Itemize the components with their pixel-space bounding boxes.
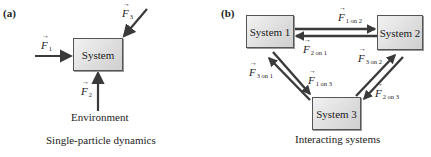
force-arrow-f1on3 <box>273 52 310 94</box>
force-label-f2on3: F2 on 3 <box>375 88 399 101</box>
panel-b-label: (b) <box>221 7 234 19</box>
force-label-f3on2: F3 on 2 <box>358 53 382 66</box>
force-label-f2: F2 <box>81 86 92 99</box>
force-label-f3: F3 <box>122 8 133 21</box>
system-label: System <box>82 49 114 61</box>
force-label-f3on1: F3 on 1 <box>249 67 273 80</box>
force-label-f1on3: F1 on 3 <box>308 75 332 88</box>
system-2-label: System 2 <box>380 27 421 39</box>
panel-b-caption: Interacting systems <box>295 133 380 145</box>
force-label-f1on2: F1 on 2 <box>338 12 362 25</box>
panel-a-caption: Single-particle dynamics <box>46 134 156 146</box>
force-arrow-f3on1 <box>269 58 310 100</box>
system-1-label: System 1 <box>250 26 291 38</box>
environment-label: Environment <box>71 111 128 123</box>
system-box: System <box>73 38 123 71</box>
force-label-f2on1: F2 on 1 <box>303 44 327 57</box>
system-1-box: System 1 <box>246 15 294 48</box>
force-label-f1: F1 <box>41 40 52 53</box>
system-3-label: System 3 <box>316 108 357 120</box>
system-2-box: System 2 <box>377 15 423 50</box>
system-3-box: System 3 <box>312 97 361 130</box>
panel-a-label: (a) <box>3 7 16 19</box>
